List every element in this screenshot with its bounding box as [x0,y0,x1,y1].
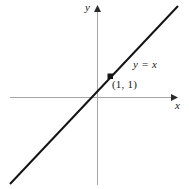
plot-canvas [0,0,189,189]
y-axis-label: y [85,2,90,13]
x-axis-label: x [175,100,180,111]
function-graph-figure: y x y = x (1, 1) [0,0,189,189]
identity-line [10,6,178,184]
y-axis-arrowhead [94,5,101,12]
line-equation-label: y = x [133,59,157,70]
point-coordinate-label: (1, 1) [112,79,137,90]
